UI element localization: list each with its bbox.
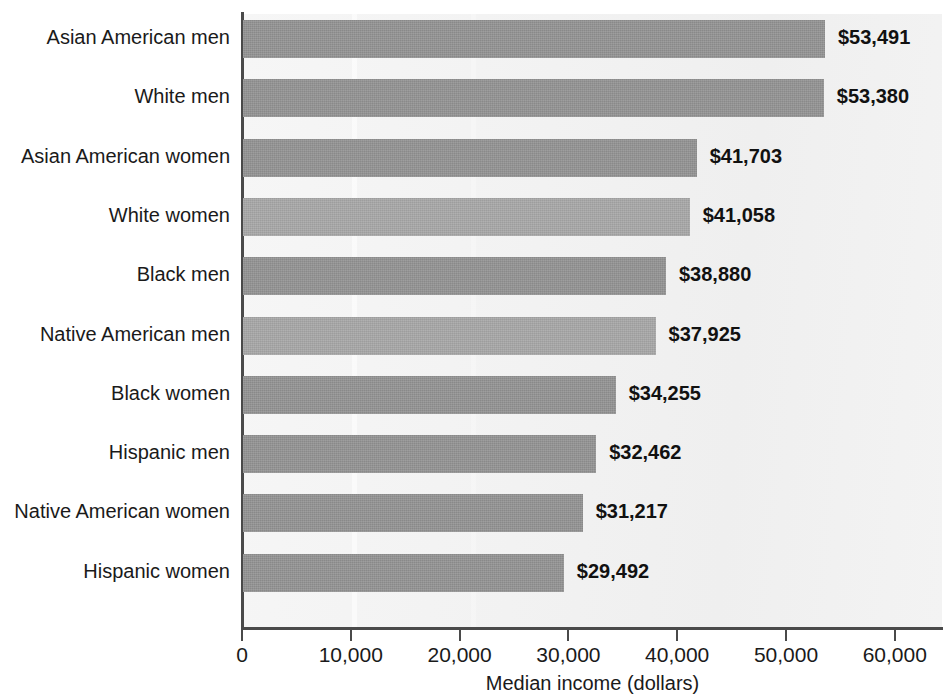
bar-value-label: $37,925 <box>669 323 741 346</box>
bar-value-label: $32,462 <box>609 441 681 464</box>
bar-texture <box>243 435 596 473</box>
chart-row: Black women$34,255 <box>0 376 943 414</box>
bar-chart: 010,00020,00030,00040,00050,00060,000 As… <box>0 0 943 699</box>
x-axis-tick <box>894 630 896 641</box>
bar-texture <box>243 20 825 58</box>
category-label: Black men <box>0 263 230 286</box>
x-axis-tick <box>567 630 569 641</box>
category-label: Hispanic men <box>0 441 230 464</box>
bar <box>243 139 697 177</box>
chart-row: Hispanic women$29,492 <box>0 554 943 592</box>
x-axis-tick-label: 40,000 <box>645 643 709 667</box>
bar-texture <box>243 317 656 355</box>
category-label: Hispanic women <box>0 560 230 583</box>
chart-row: Asian American women$41,703 <box>0 139 943 177</box>
bar <box>243 79 824 117</box>
bar-texture <box>243 376 616 414</box>
x-axis-tick-label: 0 <box>236 643 248 667</box>
bar-value-label: $31,217 <box>596 500 668 523</box>
x-axis-title: Median income (dollars) <box>243 672 942 695</box>
bar-value-label: $53,380 <box>837 85 909 108</box>
chart-row: Native American women$31,217 <box>0 494 943 532</box>
bar <box>243 494 583 532</box>
bar <box>243 20 825 58</box>
bar-value-label: $53,491 <box>838 26 910 49</box>
bar <box>243 317 656 355</box>
bar-value-label: $29,492 <box>577 560 649 583</box>
bar <box>243 376 616 414</box>
bar-texture <box>243 198 690 236</box>
x-axis-tick-label: 50,000 <box>754 643 818 667</box>
chart-row: Native American men$37,925 <box>0 317 943 355</box>
bar-value-label: $41,703 <box>710 145 782 168</box>
category-label: Asian American women <box>0 145 230 168</box>
x-axis-tick-label: 60,000 <box>863 643 927 667</box>
category-label: Native American men <box>0 323 230 346</box>
x-axis-tick <box>676 630 678 641</box>
category-label: White men <box>0 85 230 108</box>
bar-value-label: $34,255 <box>629 382 701 405</box>
bar <box>243 198 690 236</box>
chart-row: White men$53,380 <box>0 79 943 117</box>
bar <box>243 554 564 592</box>
bar <box>243 435 596 473</box>
chart-row: Asian American men$53,491 <box>0 20 943 58</box>
category-label: Black women <box>0 382 230 405</box>
chart-row: Black men$38,880 <box>0 257 943 295</box>
category-label: White women <box>0 204 230 227</box>
x-axis-tick-label: 20,000 <box>427 643 491 667</box>
bar <box>243 257 666 295</box>
category-label: Asian American men <box>0 26 230 49</box>
x-axis-tick <box>350 630 352 641</box>
bar-texture <box>243 79 824 117</box>
chart-row: Hispanic men$32,462 <box>0 435 943 473</box>
x-axis-line <box>241 627 943 630</box>
bar-texture <box>243 494 583 532</box>
bar-value-label: $41,058 <box>703 204 775 227</box>
bar-texture <box>243 257 666 295</box>
bar-value-label: $38,880 <box>679 263 751 286</box>
bar-texture <box>243 554 564 592</box>
x-axis-tick <box>785 630 787 641</box>
chart-row: White women$41,058 <box>0 198 943 236</box>
bar-texture <box>243 139 697 177</box>
x-axis-tick <box>241 630 243 641</box>
x-axis-tick <box>459 630 461 641</box>
chart-title-remnant <box>243 0 863 3</box>
x-axis-tick-label: 10,000 <box>319 643 383 667</box>
category-label: Native American women <box>0 500 230 523</box>
x-axis-tick-label: 30,000 <box>536 643 600 667</box>
